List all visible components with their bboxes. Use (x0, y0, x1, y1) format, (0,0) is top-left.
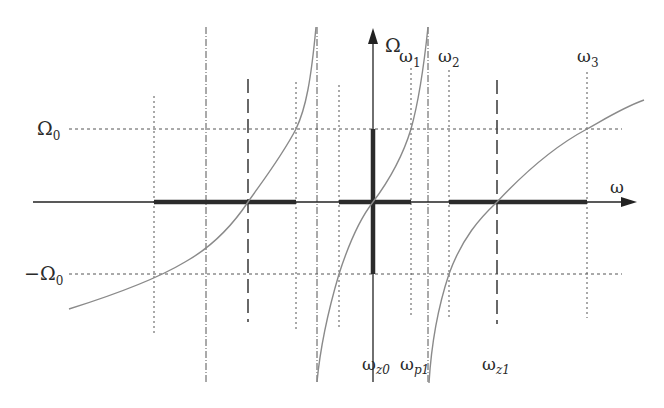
omega-axis-label: ω (610, 177, 624, 197)
omega-z1-label: ωz1 (482, 354, 510, 377)
frequency-mapping-diagram: Ω ω Ω0 −Ω0 ω1 ω2 ω3 ωz0 ωp1 ωz1 (0, 0, 664, 408)
omega0-negative-label: −Ω0 (24, 262, 63, 288)
omega-p1-label: ωp1 (400, 354, 429, 377)
mapping-branch-3 (429, 100, 644, 383)
passband-segments (154, 129, 587, 274)
omega-axis-arrow-icon (621, 197, 637, 207)
Omega-axis-arrow-icon (368, 28, 378, 44)
omega2-label: ω2 (438, 46, 460, 70)
omega0-positive-label: Ω0 (37, 117, 60, 143)
pole-asymptotes (206, 27, 428, 383)
mapping-curves (69, 27, 644, 383)
omega3-label: ω3 (577, 46, 599, 70)
omega-z0-label: ωz0 (362, 354, 390, 377)
mapping-branch-1 (69, 27, 316, 309)
omega1-label: ω1 (399, 46, 421, 70)
